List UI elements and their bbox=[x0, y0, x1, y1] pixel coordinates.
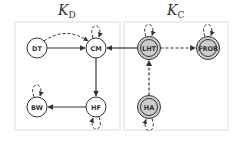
node-label: HF bbox=[91, 104, 101, 112]
self-loop-lht bbox=[145, 24, 153, 36]
self-loop-cm bbox=[92, 26, 100, 38]
node-dt: DT bbox=[27, 38, 47, 58]
node-label: BW bbox=[31, 104, 43, 112]
nodes-layer: DTCMBWHFLHTFRORHA bbox=[27, 37, 220, 119]
node-lht: LHT bbox=[138, 37, 161, 60]
self-loop-bw bbox=[33, 85, 41, 97]
node-label: CM bbox=[90, 45, 101, 53]
self-loop-hf bbox=[92, 117, 100, 129]
node-label: FROR bbox=[198, 45, 218, 53]
state-diagram: DTCMBWHFLHTFRORHA bbox=[0, 0, 241, 141]
node-ha: HA bbox=[138, 96, 161, 119]
edge-dt-to-cm-dashed bbox=[44, 34, 88, 42]
node-label: DT bbox=[32, 45, 42, 53]
self-loops-layer bbox=[33, 24, 212, 130]
node-bw: BW bbox=[27, 97, 47, 117]
node-label: HA bbox=[144, 104, 154, 112]
panels-layer bbox=[15, 22, 228, 130]
node-fror: FROR bbox=[197, 37, 220, 60]
node-hf: HF bbox=[86, 97, 106, 117]
self-loop-fror bbox=[204, 24, 212, 36]
self-loop-ha bbox=[145, 119, 153, 131]
node-cm: CM bbox=[86, 38, 106, 58]
node-label: LHT bbox=[142, 45, 157, 53]
